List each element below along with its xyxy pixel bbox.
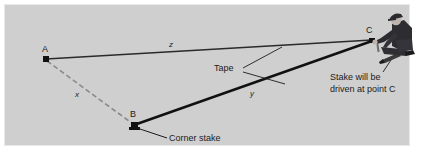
corner-stake-leader-line <box>137 128 167 138</box>
segment-label-z: z <box>169 40 173 49</box>
segment-z-line <box>46 40 372 59</box>
segment-y-line <box>134 41 372 125</box>
point-label-a: A <box>42 44 48 54</box>
point-marker-a <box>43 56 49 62</box>
point-label-b: B <box>130 109 136 119</box>
stake-note-line-1: Stake will be <box>330 72 381 82</box>
tape-annotation-label: Tape <box>214 63 234 73</box>
tape-leader-line-upper <box>243 47 282 68</box>
kneeling-surveyor-icon <box>372 14 415 57</box>
segment-label-x: x <box>75 90 79 99</box>
corner-stake-annotation-label: Corner stake <box>169 133 221 143</box>
segment-x-line <box>47 61 133 124</box>
segment-label-y: y <box>250 89 254 98</box>
stake-note-line-2: driven at point C <box>330 84 396 94</box>
point-label-c: C <box>366 25 373 35</box>
survey-triangulation-figure: A B C z y x Tape Corner stake Stake will… <box>0 0 424 156</box>
